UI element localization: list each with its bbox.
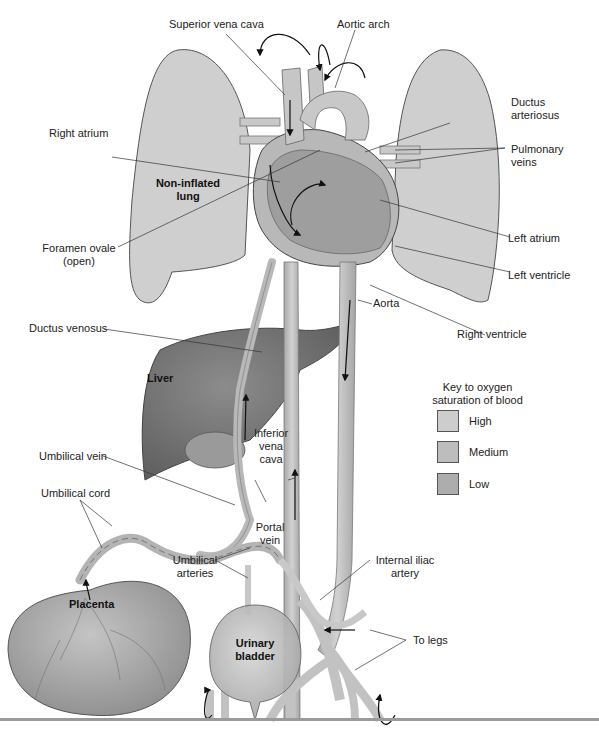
aorta-vessel: [318, 262, 356, 660]
legend-item-high: High: [437, 410, 492, 432]
label-portal-vein-1: Portal: [250, 521, 290, 534]
label-non-inflated-lung-2: lung: [143, 190, 233, 203]
label-inferior-vena-cava-3: cava: [246, 453, 296, 466]
label-ductus-arteriosus-1: Ductus: [511, 96, 545, 109]
label-pulmonary-veins-2: veins: [511, 156, 537, 169]
legend-item-low: Low: [437, 473, 489, 495]
label-to-legs: To legs: [413, 634, 448, 647]
label-umbilical-cord: Umbilical cord: [41, 487, 110, 500]
label-aorta: Aorta: [373, 297, 399, 310]
label-aortic-arch: Aortic arch: [337, 18, 390, 31]
label-umbilical-vein: Umbilical vein: [39, 450, 107, 463]
legend-title-line-1: Key to oxygen: [410, 381, 545, 394]
label-internal-iliac-artery-2: artery: [365, 567, 445, 580]
legend-swatch-high: [437, 410, 459, 432]
label-umbilical-arteries-1: Umbilical: [170, 554, 220, 567]
label-left-atrium: Left atrium: [508, 232, 560, 245]
legend-label-high: High: [469, 415, 492, 427]
label-urinary-bladder-1: Urinary: [225, 637, 285, 650]
label-placenta: Placenta: [69, 598, 114, 611]
legend-label-medium: Medium: [469, 446, 508, 458]
legend-swatch-low: [437, 473, 459, 495]
diagram-illustration: [0, 0, 599, 737]
label-foramen-ovale-1: Foramen ovale: [38, 242, 120, 255]
legend-title: Key to oxygen saturation of blood: [410, 381, 545, 407]
label-left-ventricle: Left ventricle: [508, 269, 570, 282]
legend-item-medium: Medium: [437, 441, 508, 463]
legend-label-low: Low: [469, 478, 489, 490]
label-right-atrium: Right atrium: [49, 127, 108, 140]
label-inferior-vena-cava-2: vena: [246, 440, 296, 453]
legend-swatch-medium: [437, 441, 459, 463]
bottom-divider: [0, 718, 599, 721]
label-pulmonary-veins-1: Pulmonary: [511, 143, 564, 156]
fetal-circulation-diagram: Superior vena cava Aortic arch Ductus ar…: [0, 0, 599, 737]
label-ductus-venosus: Ductus venosus: [29, 322, 107, 335]
label-right-ventricle: Right ventricle: [457, 328, 527, 341]
label-superior-vena-cava: Superior vena cava: [169, 18, 264, 31]
label-internal-iliac-artery-1: Internal iliac: [365, 554, 445, 567]
legend-title-line-2: saturation of blood: [410, 394, 545, 407]
label-portal-vein-2: vein: [250, 534, 290, 547]
label-umbilical-arteries-2: arteries: [170, 567, 220, 580]
label-liver: Liver: [147, 372, 173, 385]
label-non-inflated-lung-1: Non-inflated: [143, 177, 233, 190]
label-urinary-bladder-2: bladder: [225, 650, 285, 663]
label-inferior-vena-cava-1: Inferior: [246, 427, 296, 440]
label-ductus-arteriosus-2: arteriosus: [511, 109, 559, 122]
label-foramen-ovale-2: (open): [38, 255, 120, 268]
right-lung: [392, 50, 499, 302]
